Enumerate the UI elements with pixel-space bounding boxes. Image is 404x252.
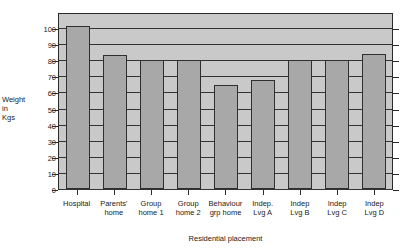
bar-slot bbox=[244, 14, 281, 189]
y-axis-tick-mark-right bbox=[393, 45, 399, 46]
x-axis-tick-label-line: Lvg C bbox=[319, 208, 356, 217]
bar bbox=[288, 60, 312, 189]
x-axis-tick-label-line: Indep bbox=[356, 199, 393, 208]
bar-slot bbox=[281, 14, 318, 189]
bar-slot bbox=[318, 14, 355, 189]
x-axis-tick-label: Hospital bbox=[58, 199, 95, 217]
x-axis-tick-label-line: Indep bbox=[319, 199, 356, 208]
x-axis-tick-marks bbox=[58, 190, 393, 196]
bar bbox=[140, 60, 164, 189]
x-axis-tick-label-line: Indep. bbox=[244, 199, 281, 208]
y-axis-tick-mark-right bbox=[393, 110, 399, 111]
x-axis-tick-label-line: grp home bbox=[207, 208, 244, 217]
bar bbox=[214, 85, 238, 189]
x-axis-tick-label-line: Group bbox=[170, 199, 207, 208]
y-axis-tick-mark-right bbox=[393, 158, 399, 159]
plot-area bbox=[58, 13, 393, 190]
x-axis-tick-label: Grouphome 1 bbox=[132, 199, 169, 217]
y-axis-tick-mark-right bbox=[393, 174, 399, 175]
x-axis-tick-label-line: Hospital bbox=[58, 199, 95, 208]
x-axis-tick-label-line: Behaviour bbox=[207, 199, 244, 208]
bar-series bbox=[59, 14, 392, 189]
bar bbox=[362, 54, 386, 189]
x-axis-tick-label-line: Indep bbox=[281, 199, 318, 208]
bar bbox=[66, 26, 90, 189]
x-axis-tick-mark bbox=[207, 190, 244, 196]
bar bbox=[251, 80, 275, 189]
x-axis-tick-mark bbox=[356, 190, 393, 196]
x-axis-tick-mark bbox=[244, 190, 281, 196]
x-axis-tick-label-line: Lvg D bbox=[356, 208, 393, 217]
y-axis-tick-mark-right bbox=[393, 126, 399, 127]
y-axis-tick-labels: 0102030405060708090100 bbox=[30, 13, 56, 190]
x-axis-tick-label: IndepLvg D bbox=[356, 199, 393, 217]
bar bbox=[177, 60, 201, 189]
plot-inner bbox=[59, 14, 392, 189]
x-axis-tick-label: IndepLvg B bbox=[281, 199, 318, 217]
bar bbox=[103, 55, 127, 189]
y-axis-tick-mark-right bbox=[393, 77, 399, 78]
x-axis-tick-label-line: home 1 bbox=[132, 208, 169, 217]
bar-slot bbox=[170, 14, 207, 189]
x-axis-tick-mark bbox=[95, 190, 132, 196]
x-axis-tick-mark bbox=[58, 190, 95, 196]
x-axis-tick-label-line: home bbox=[95, 208, 132, 217]
x-axis-tick-label: Grouphome 2 bbox=[170, 199, 207, 217]
x-axis-tick-label-line: Group bbox=[132, 199, 169, 208]
x-axis-tick-label-line: Lvg B bbox=[281, 208, 318, 217]
x-axis-tick-label-line: home 2 bbox=[170, 208, 207, 217]
x-axis-tick-label: Indep.Lvg A bbox=[244, 199, 281, 217]
x-axis-tick-label: IndepLvg C bbox=[319, 199, 356, 217]
x-axis-tick-mark bbox=[170, 190, 207, 196]
y-axis-tick-mark-right bbox=[393, 142, 399, 143]
bar-slot bbox=[133, 14, 170, 189]
bar-chart: Weight in Kgs 0102030405060708090100 Hos… bbox=[0, 0, 404, 252]
bar bbox=[325, 60, 349, 189]
x-axis-title: Residential placement bbox=[58, 234, 393, 243]
x-axis-tick-label-line: Lvg A bbox=[244, 208, 281, 217]
bar-slot bbox=[355, 14, 392, 189]
y-axis-tick-mark-right bbox=[393, 29, 399, 30]
x-axis-tick-label-line: Parents' bbox=[95, 199, 132, 208]
x-axis-tick-label: Parents'home bbox=[95, 199, 132, 217]
x-axis-tick-mark bbox=[281, 190, 318, 196]
bar-slot bbox=[207, 14, 244, 189]
y-axis-tick-mark-right bbox=[393, 93, 399, 94]
x-axis-tick-mark bbox=[319, 190, 356, 196]
bar-slot bbox=[59, 14, 96, 189]
x-axis-tick-labels: HospitalParents'homeGrouphome 1Grouphome… bbox=[58, 199, 393, 217]
x-axis-tick-mark bbox=[132, 190, 169, 196]
y-axis-tick-mark-right bbox=[393, 61, 399, 62]
bar-slot bbox=[96, 14, 133, 189]
y-axis-tick-mark-right bbox=[393, 190, 399, 191]
x-axis-tick-label: Behaviourgrp home bbox=[207, 199, 244, 217]
